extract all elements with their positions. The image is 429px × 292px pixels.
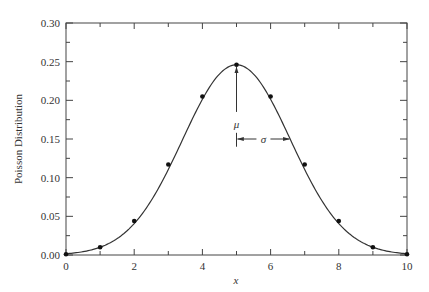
data-point xyxy=(302,162,307,167)
x-axis-label: x xyxy=(233,274,239,286)
x-tick-label: 8 xyxy=(336,260,342,272)
poisson-chart: 0246810 0.000.050.100.150.200.250.30 μσ … xyxy=(0,0,429,292)
data-point xyxy=(200,94,205,99)
annotations: μσ xyxy=(233,67,290,147)
x-tick-label: 6 xyxy=(268,260,274,272)
y-tick-label: 0.00 xyxy=(41,249,61,261)
x-tick-label: 10 xyxy=(402,260,414,272)
y-tick-label: 0.20 xyxy=(41,94,61,106)
data-point xyxy=(166,162,171,167)
y-axis-label: Poisson Distribution xyxy=(12,93,24,184)
y-tick-label: 0.05 xyxy=(41,210,61,222)
x-tick-label: 0 xyxy=(63,260,69,272)
x-axis-ticks: 0246810 xyxy=(63,23,413,272)
sigma-label: σ xyxy=(261,133,267,145)
y-tick-label: 0.15 xyxy=(41,133,61,145)
data-point xyxy=(371,245,376,250)
data-point xyxy=(98,245,103,250)
x-tick-label: 2 xyxy=(131,260,137,272)
data-point xyxy=(337,219,342,224)
data-point xyxy=(268,94,273,99)
mu-label: μ xyxy=(233,118,240,130)
data-point xyxy=(234,62,239,67)
y-tick-label: 0.10 xyxy=(41,172,61,184)
x-tick-label: 4 xyxy=(200,260,206,272)
y-tick-label: 0.25 xyxy=(41,56,61,68)
y-axis-ticks: 0.000.050.100.150.200.250.30 xyxy=(41,17,407,261)
data-point xyxy=(64,252,69,257)
y-tick-label: 0.30 xyxy=(41,17,61,29)
data-point xyxy=(132,219,137,224)
data-point xyxy=(405,252,410,257)
